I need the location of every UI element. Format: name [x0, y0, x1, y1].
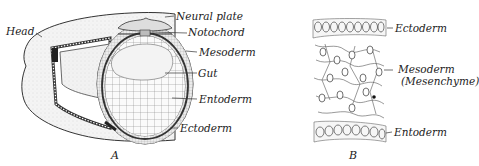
label-head: Head: [6, 26, 34, 37]
label-notochord: Notochord: [188, 27, 245, 38]
label-entoderm-a: Entoderm: [199, 94, 252, 105]
label-mesoderm-a: Mesoderm: [199, 47, 256, 58]
label-mesoderm-b: Mesoderm: [398, 64, 455, 75]
figure-b-tissue: [313, 19, 393, 143]
label-ectoderm-a: Ectoderm: [180, 123, 232, 134]
caption-a: A: [111, 149, 119, 162]
label-entoderm-b: Entoderm: [394, 127, 447, 138]
label-mesenchyme: (Mesenchyme): [401, 76, 479, 87]
figure-a-embryo: [22, 13, 197, 145]
label-neural-plate: Neural plate: [176, 11, 243, 22]
label-ectoderm-b: Ectoderm: [395, 23, 447, 34]
caption-b: B: [349, 149, 357, 162]
label-gut: Gut: [198, 68, 217, 79]
